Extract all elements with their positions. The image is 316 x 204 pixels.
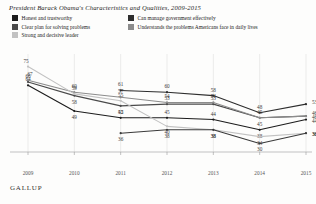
- source-label: GALLUP: [10, 184, 42, 192]
- data-point-label: 45: [164, 109, 170, 115]
- data-point: [27, 79, 29, 81]
- legend-item-clear-plan[interactable]: Clear plan for solving problems: [12, 24, 128, 30]
- x-axis-tick-label: 2014: [254, 170, 265, 176]
- legend-row: Clear plan for solving problems Understa…: [12, 24, 312, 30]
- data-point-label: 44: [211, 111, 217, 117]
- data-point: [259, 117, 261, 119]
- data-point: [305, 132, 307, 134]
- data-point-label: 49: [72, 114, 78, 120]
- data-point: [120, 132, 122, 134]
- data-point-label: 59: [72, 85, 78, 91]
- legend-swatch-icon: [128, 24, 134, 30]
- legend-label: Understands the problems Americans face …: [138, 24, 258, 30]
- legend-item-strong-leader[interactable]: Strong and decisive leader: [12, 32, 128, 38]
- x-axis-tick-label: 2010: [69, 170, 80, 176]
- data-point: [305, 103, 307, 105]
- data-point: [305, 115, 307, 117]
- data-point-label: 58: [72, 99, 78, 105]
- data-point: [120, 117, 122, 119]
- x-axis-tick-label: 2013: [208, 170, 219, 176]
- legend-item-manage[interactable]: Can manage government effectively: [128, 15, 216, 21]
- legend-label: Clear plan for solving problems: [22, 24, 91, 30]
- legend-label: Strong and decisive leader: [22, 32, 79, 38]
- data-point-label: 45: [257, 109, 263, 115]
- data-point: [120, 105, 122, 107]
- legend-swatch-icon: [12, 32, 18, 38]
- data-point: [212, 101, 214, 103]
- data-point-label: 52: [118, 109, 124, 115]
- data-point: [212, 118, 214, 120]
- data-point: [120, 100, 122, 102]
- data-point: [166, 129, 168, 131]
- data-point-label: 38: [211, 133, 217, 139]
- chart-legend: Honest and trustworthy Can manage govern…: [12, 15, 312, 41]
- legend-item-understands[interactable]: Understands the problems Americans face …: [128, 24, 258, 30]
- data-point: [259, 129, 261, 131]
- data-point-label: 58: [211, 87, 217, 93]
- data-point: [259, 136, 261, 138]
- data-point: [305, 118, 307, 120]
- data-point: [166, 117, 168, 119]
- data-point: [166, 101, 168, 103]
- data-point-label: 61: [118, 81, 124, 87]
- data-point-label: 36: [312, 131, 316, 137]
- x-axis-labels: 2009201020112012201320142015: [0, 170, 316, 182]
- data-point-label: 67: [27, 71, 33, 77]
- legend-row: Honest and trustworthy Can manage govern…: [12, 15, 312, 21]
- data-point-label: 55: [118, 92, 124, 98]
- legend-label: Honest and trustworthy: [22, 15, 73, 21]
- data-point-label: 54: [164, 93, 170, 99]
- data-point-label: 54: [211, 93, 217, 99]
- legend-swatch-icon: [12, 15, 18, 21]
- data-point: [27, 84, 29, 86]
- chart-plot-area: 6449454544384461605848536658525353454667…: [0, 52, 316, 170]
- data-point-label: 75: [23, 58, 29, 64]
- data-point-label: 38: [164, 133, 170, 139]
- x-axis-tick-label: 2009: [23, 170, 34, 176]
- legend-swatch-icon: [12, 24, 18, 30]
- data-point: [166, 125, 168, 127]
- data-point: [259, 142, 261, 144]
- data-point: [73, 93, 75, 95]
- data-point: [212, 129, 214, 131]
- x-axis-tick-label: 2011: [115, 170, 125, 176]
- x-axis-tick-label: 2015: [301, 170, 312, 176]
- data-point-label: 30: [257, 146, 263, 152]
- legend-item-honest[interactable]: Honest and trustworthy: [12, 15, 128, 21]
- legend-swatch-icon: [128, 15, 134, 21]
- page-title: President Barack Obama's Characteristics…: [9, 4, 201, 11]
- data-point-label: 36: [118, 136, 124, 142]
- data-point-label: 46: [312, 110, 316, 116]
- line-chart: 6449454544384461605848536658525353454667…: [0, 52, 316, 170]
- data-point: [73, 110, 75, 112]
- chart-sheet: President Barack Obama's Characteristics…: [0, 0, 316, 204]
- legend-row: Strong and decisive leader: [12, 32, 312, 38]
- x-axis-tick-label: 2012: [162, 170, 173, 176]
- data-point-label: 45: [257, 121, 263, 127]
- legend-label: Can manage government effectively: [138, 15, 216, 21]
- data-point: [27, 65, 29, 67]
- data-point-label: 53: [312, 99, 316, 105]
- data-point-label: 60: [164, 83, 170, 89]
